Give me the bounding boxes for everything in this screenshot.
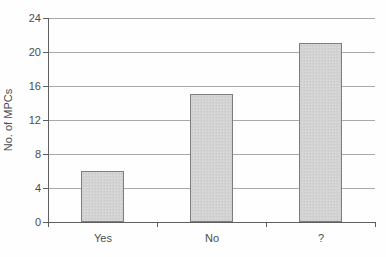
y-axis-tick bbox=[43, 18, 48, 19]
bar-no bbox=[190, 94, 233, 222]
y-tick-label: 16 bbox=[13, 80, 41, 92]
y-axis-tick bbox=[43, 154, 48, 155]
x-axis-tick bbox=[48, 223, 49, 227]
y-axis-tick bbox=[43, 86, 48, 87]
y-tick-label: 12 bbox=[13, 114, 41, 126]
bar-yes bbox=[81, 171, 124, 222]
y-axis-tick bbox=[43, 120, 48, 121]
y-tick-label: 20 bbox=[13, 46, 41, 58]
y-axis-line bbox=[48, 18, 49, 223]
plot-area bbox=[48, 18, 375, 222]
bar-chart-figure: No. of MPCs 04812162024YesNo? bbox=[0, 0, 386, 257]
bar- bbox=[299, 43, 342, 222]
x-axis-line bbox=[48, 222, 376, 223]
y-tick-label: 0 bbox=[13, 216, 41, 228]
y-axis-tick bbox=[43, 52, 48, 53]
x-axis-tick bbox=[157, 223, 158, 227]
y-tick-label: 4 bbox=[13, 182, 41, 194]
y-tick-label: 8 bbox=[13, 148, 41, 160]
x-axis-tick bbox=[375, 223, 376, 227]
gridline bbox=[48, 18, 375, 19]
x-tick-label: Yes bbox=[73, 232, 133, 244]
x-tick-label: No bbox=[182, 232, 242, 244]
x-tick-label: ? bbox=[291, 232, 351, 244]
y-tick-label: 24 bbox=[13, 12, 41, 24]
x-axis-tick bbox=[266, 223, 267, 227]
y-axis-tick bbox=[43, 188, 48, 189]
